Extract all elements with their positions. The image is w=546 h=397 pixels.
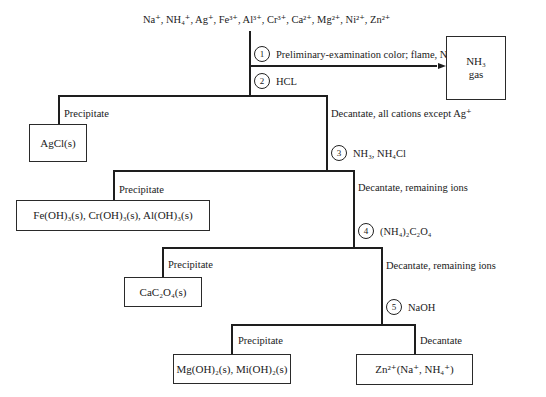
decantate-label-2: Decantate, remaining ions [358, 182, 468, 194]
precipitate-label: Precipitate [238, 335, 283, 347]
branch-3-right [381, 247, 383, 325]
step-3: 3 NH₃, NH₄Cl [331, 145, 406, 161]
precipitate-label: Precipitate [168, 259, 213, 271]
step-number-circle: 3 [331, 145, 347, 161]
branch-3-left [162, 247, 164, 278]
decantate-label-3: Decantate, remaining ions [386, 260, 496, 272]
step-2: 2 HCL [254, 73, 297, 89]
step-5: 5 NaOH [386, 299, 435, 315]
nh3-gas-box: NH₃ gas [446, 36, 506, 100]
decantate-label-4: Decantate [420, 335, 462, 347]
branch-2-left [113, 170, 115, 201]
branch-4-right [414, 324, 416, 355]
agcl-box: AgCl(s) [29, 124, 87, 162]
precipitate-label: Precipitate [119, 184, 164, 196]
step-number-circle: 1 [254, 46, 270, 62]
arrow-nh3-line [249, 65, 437, 67]
branch-3-line [162, 247, 382, 249]
step-reagent: HCL [276, 76, 297, 87]
step-reagent: Preliminary-examination color; flame, NH… [276, 48, 464, 60]
step-reagent: NaOH [408, 302, 435, 313]
step-number-circle: 2 [254, 73, 270, 89]
oxalate-box: CaC₂O₄(s) [124, 277, 202, 307]
branch-1-line [58, 95, 327, 97]
step-reagent: NH₃, NH₄Cl [353, 148, 406, 159]
step-number-circle: 5 [386, 299, 402, 315]
arrowhead-icon [438, 63, 446, 69]
step-1: 1 Preliminary-examination color; flame, … [254, 46, 464, 62]
precipitate-label: Precipitate [64, 108, 109, 120]
nh3-label: NH₃ [466, 55, 486, 68]
branch-4-line [231, 324, 415, 326]
branch-2-line [113, 170, 354, 172]
decantate-label-1: Decantate, all cations except Ag⁺ [331, 108, 472, 120]
step-number-circle: 4 [358, 223, 374, 239]
branch-2-right [353, 170, 355, 248]
branch-1-right [326, 95, 328, 171]
step-reagent: (NH₄)₂C₂O₄ [380, 226, 431, 237]
zinc-final-box: Zn²⁺(Na⁺, NH₄⁺) [356, 354, 473, 385]
branch-1-left [58, 95, 60, 124]
trunk-line [249, 31, 251, 96]
mg-ni-hydroxides-box: Mg(OH)₂(s), Mi(OH)₂(s) [173, 354, 291, 384]
gas-label: gas [469, 68, 484, 81]
hydroxides-box: Fe(OH)₃(s), Cr(OH)₃(s), Al(OH)₃(s) [16, 200, 210, 231]
starting-ions: Na⁺, NH₄⁺, Ag⁺, Fe³⁺, Al³⁺, Cr³⁺, Ca²⁺, … [143, 14, 390, 26]
branch-4-left [231, 324, 233, 355]
step-4: 4 (NH₄)₂C₂O₄ [358, 223, 431, 239]
